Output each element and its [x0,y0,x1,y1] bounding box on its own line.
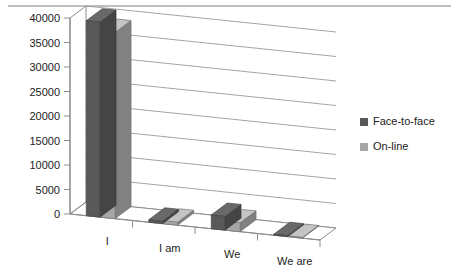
legend-label: Face-to-face [373,115,435,127]
bars-group [86,9,318,239]
y-axis-tick-label: 25000 [29,86,60,98]
legend-label: On-line [373,140,408,152]
y-axis-tick-label: 40000 [29,12,60,24]
y-axis-tick-label: 0 [54,208,60,220]
y-axis-tick-label: 15000 [29,135,60,147]
chart-canvas: 0500010000150002000025000300003500040000… [0,0,459,277]
legend: Face-to-faceOn-line [360,115,435,152]
y-axis-wall [70,6,86,214]
y-axis-tick-label: 20000 [29,110,60,122]
y-axis-tick-label: 10000 [29,159,60,171]
legend-swatch [360,143,368,151]
bar-chart-figure: 0500010000150002000025000300003500040000… [0,0,459,277]
y-axis-tick-labels: 0500010000150002000025000300003500040000 [29,12,60,220]
y-axis-tick-label: 5000 [36,184,60,196]
legend-swatch [360,118,368,126]
y-axis-tick-label: 30000 [29,61,60,73]
x-axis-category-label: We [224,248,240,260]
x-axis-category-label: I [106,235,109,247]
x-axis-tick-labels: II amWeWe are [106,235,313,267]
y-axis-tick-label: 35000 [29,37,60,49]
bar-3d [86,9,116,217]
x-axis-category-label: I am [159,242,180,254]
x-axis-category-label: We are [277,255,312,267]
